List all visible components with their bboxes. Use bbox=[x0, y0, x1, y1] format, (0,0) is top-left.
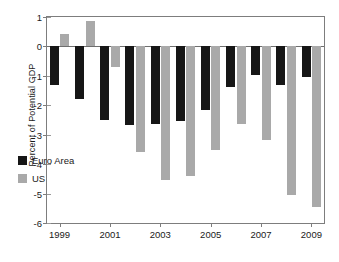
y-tick-mark-inner bbox=[47, 105, 51, 106]
y-tick-mark-inner bbox=[47, 135, 51, 136]
bar-us-2005 bbox=[211, 46, 220, 150]
legend-swatch-euro-area-icon bbox=[18, 156, 27, 165]
x-tick-mark bbox=[60, 223, 61, 227]
bar-euro-area-2009 bbox=[302, 46, 311, 77]
legend-label-us: US bbox=[32, 173, 45, 184]
y-tick-mark-inner bbox=[47, 17, 51, 18]
bar-euro-area-2000 bbox=[75, 46, 84, 99]
x-tick-label: 2009 bbox=[301, 229, 322, 240]
x-tick-label: 2003 bbox=[150, 229, 171, 240]
x-tick-mark bbox=[311, 223, 312, 227]
bar-euro-area-2005 bbox=[201, 46, 210, 110]
x-tick-mark bbox=[160, 223, 161, 227]
bar-us-2001 bbox=[111, 46, 120, 66]
x-tick-label: 2007 bbox=[250, 229, 271, 240]
x-tick-mark bbox=[110, 223, 111, 227]
bar-euro-area-2007 bbox=[251, 46, 260, 75]
y-tick-mark-inner bbox=[47, 194, 51, 195]
bar-us-2002 bbox=[136, 46, 145, 151]
y-tick-mark-inner bbox=[47, 223, 51, 224]
bar-us-2004 bbox=[186, 46, 195, 176]
y-tick-label: -3 bbox=[34, 129, 42, 140]
y-tick-label: 1 bbox=[37, 12, 42, 23]
legend-item-us: US bbox=[18, 173, 74, 184]
bar-euro-area-1999 bbox=[50, 46, 59, 85]
legend-swatch-us-icon bbox=[18, 174, 27, 183]
bar-euro-area-2008 bbox=[276, 46, 285, 85]
legend-label-euro-area: Euro Area bbox=[32, 155, 74, 166]
legend-item-euro-area: Euro Area bbox=[18, 155, 74, 166]
bar-us-2007 bbox=[262, 46, 271, 139]
x-tick-label: 1999 bbox=[49, 229, 70, 240]
bar-euro-area-2001 bbox=[100, 46, 109, 119]
chart-legend: Euro Area US bbox=[18, 155, 74, 191]
bar-us-2006 bbox=[237, 46, 246, 123]
bar-us-2003 bbox=[161, 46, 170, 180]
bar-us-2009 bbox=[312, 46, 321, 206]
x-tick-mark bbox=[261, 223, 262, 227]
bar-us-2000 bbox=[86, 21, 95, 46]
x-tick-label: 2001 bbox=[99, 229, 120, 240]
bar-us-2008 bbox=[287, 46, 296, 195]
bar-euro-area-2004 bbox=[176, 46, 185, 120]
chart-figure: Percent of Potential GDP 10-1-2-3-4-5-61… bbox=[0, 0, 339, 262]
y-tick-label: -6 bbox=[34, 218, 42, 229]
bar-euro-area-2002 bbox=[125, 46, 134, 125]
plot-area: 10-1-2-3-4-5-6199920012003200520072009 bbox=[46, 16, 325, 224]
y-tick-label: -2 bbox=[34, 100, 42, 111]
x-tick-label: 2005 bbox=[200, 229, 221, 240]
bar-euro-area-2006 bbox=[226, 46, 235, 86]
y-tick-label: -1 bbox=[34, 70, 42, 81]
bar-euro-area-2003 bbox=[151, 46, 160, 124]
bar-us-1999 bbox=[60, 34, 69, 46]
x-tick-mark bbox=[211, 223, 212, 227]
y-tick-label: 0 bbox=[37, 41, 42, 52]
